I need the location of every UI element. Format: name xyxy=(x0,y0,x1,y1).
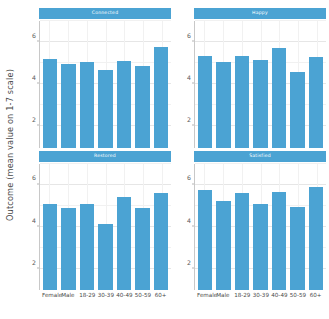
facet-strip-0: Connected xyxy=(39,8,171,19)
bar xyxy=(272,192,286,290)
x-axis-labels-left: FemaleMale18-2930-3940-4950-5960+ xyxy=(39,290,171,310)
y-tick-label: 4 xyxy=(187,217,191,223)
y-tick-label: 6 xyxy=(32,33,36,39)
x-tick-label: Male xyxy=(61,290,76,310)
facet-strip-3: Satisfied xyxy=(194,151,326,162)
bar-series-0 xyxy=(40,21,171,148)
bar xyxy=(135,66,149,147)
y-tick-label: 6 xyxy=(32,175,36,181)
x-tick-label: 30-39 xyxy=(98,290,113,310)
facet-body-0: 246 xyxy=(20,21,171,148)
x-tick-label: 18-29 xyxy=(79,290,94,310)
bar xyxy=(80,204,94,290)
x-axis-labels-right: FemaleMale18-2930-3940-4950-5960+ xyxy=(194,290,326,310)
plot-area-1 xyxy=(194,21,326,148)
bar-series-1 xyxy=(195,21,326,148)
facet-strip-label-2: Restored xyxy=(94,154,116,159)
bar xyxy=(198,190,212,290)
facet-panel-1: Happy 246 xyxy=(175,8,326,148)
bar xyxy=(98,70,112,148)
y-tick-label: 2 xyxy=(32,117,36,123)
x-tick-label: Male xyxy=(216,290,231,310)
y-axis-1: 246 xyxy=(175,21,194,148)
y-tick-label: 2 xyxy=(187,117,191,123)
bar xyxy=(61,208,75,290)
y-tick-label: 2 xyxy=(187,260,191,266)
y-axis-title-text: Outcome (mean value on 1-7 scale) xyxy=(5,69,15,221)
y-axis-title: Outcome (mean value on 1-7 scale) xyxy=(0,0,20,290)
bar xyxy=(154,47,168,147)
facet-strip-label-0: Connected xyxy=(92,11,119,16)
facet-grid: Connected 246 Happy 246 xyxy=(20,8,326,290)
x-tick-label: 30-39 xyxy=(253,290,268,310)
bar xyxy=(198,56,212,148)
y-tick-label: 6 xyxy=(187,175,191,181)
x-tick-label: 60+ xyxy=(153,290,168,310)
x-tick-label: 50-59 xyxy=(290,290,305,310)
y-axis-2: 246 xyxy=(20,164,39,291)
bar xyxy=(216,62,230,147)
bar xyxy=(253,60,267,147)
x-tick-label: 18-29 xyxy=(234,290,249,310)
bar xyxy=(235,56,249,148)
bar xyxy=(117,197,131,290)
x-tick-label: Female xyxy=(42,290,57,310)
bar xyxy=(117,61,131,147)
x-axis: FemaleMale18-2930-3940-4950-5960+ Female… xyxy=(20,290,326,310)
faceted-bar-chart: Outcome (mean value on 1-7 scale) Connec… xyxy=(0,0,329,319)
x-tick-label: Female xyxy=(197,290,212,310)
facet-body-1: 246 xyxy=(175,21,326,148)
plot-area-3 xyxy=(194,164,326,291)
facet-panel-3: Satisfied 246 xyxy=(175,151,326,291)
x-tick-label: 50-59 xyxy=(135,290,150,310)
y-axis-0: 246 xyxy=(20,21,39,148)
y-tick-label: 4 xyxy=(187,75,191,81)
facet-strip-label-3: Satisfied xyxy=(249,154,271,159)
bar xyxy=(253,204,267,290)
y-tick-label: 4 xyxy=(32,217,36,223)
bar-series-3 xyxy=(195,164,326,291)
facet-panel-2: Restored 246 xyxy=(20,151,171,291)
bar xyxy=(309,57,323,148)
bar xyxy=(290,72,304,148)
bar xyxy=(98,224,112,290)
bar xyxy=(154,193,168,290)
plot-area-0 xyxy=(39,21,171,148)
facet-panel-0: Connected 246 xyxy=(20,8,171,148)
x-tick-label: 40-49 xyxy=(116,290,131,310)
y-tick-label: 4 xyxy=(32,75,36,81)
bar xyxy=(135,208,149,290)
facet-strip-label-1: Happy xyxy=(252,11,268,16)
bar xyxy=(61,64,75,147)
bar xyxy=(309,187,323,290)
facet-body-3: 246 xyxy=(175,164,326,291)
bar xyxy=(216,201,230,290)
plot-area-2 xyxy=(39,164,171,291)
y-tick-label: 2 xyxy=(32,260,36,266)
bar xyxy=(290,207,304,290)
bar xyxy=(235,193,249,290)
bar xyxy=(43,59,57,148)
bar xyxy=(80,62,94,147)
y-tick-label: 6 xyxy=(187,33,191,39)
facet-body-2: 246 xyxy=(20,164,171,291)
bar xyxy=(272,48,286,147)
bar-series-2 xyxy=(40,164,171,291)
x-tick-label: 60+ xyxy=(308,290,323,310)
bar xyxy=(43,204,57,290)
facet-strip-2: Restored xyxy=(39,151,171,162)
y-axis-3: 246 xyxy=(175,164,194,291)
x-tick-label: 40-49 xyxy=(271,290,286,310)
facet-strip-1: Happy xyxy=(194,8,326,19)
